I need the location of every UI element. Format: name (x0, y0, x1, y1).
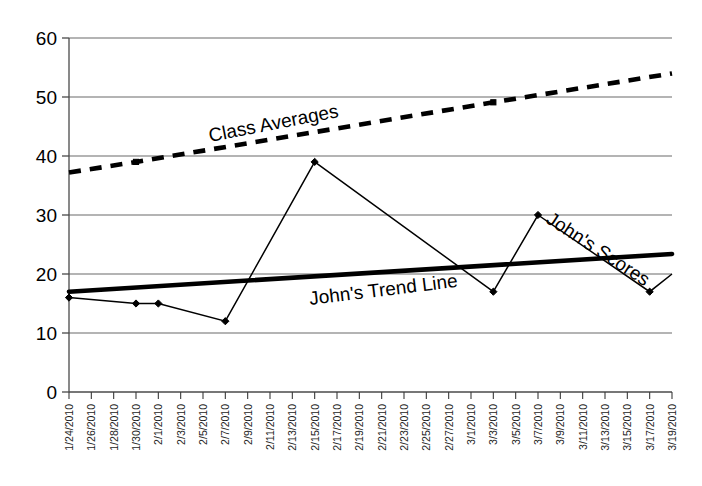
x-tick-label: 2/15/2010 (309, 404, 321, 451)
johns-scores-marker (65, 294, 72, 301)
y-tick-label: 30 (36, 205, 57, 226)
x-tick-label: 2/23/2010 (398, 404, 410, 451)
x-tick-label: 1/30/2010 (130, 404, 142, 451)
y-tick-label: 0 (46, 382, 57, 403)
johns-scores-marker (222, 318, 229, 325)
x-tick-label: 1/24/2010 (63, 404, 75, 451)
y-tick-labels: 0102030405060 (36, 28, 57, 403)
x-tick-label: 3/19/2010 (666, 404, 678, 451)
series-label-class-averages: Class Averages (207, 100, 340, 146)
x-tick-label: 3/15/2010 (621, 404, 633, 451)
chart-canvas: 0102030405060 1/24/20101/26/20101/28/201… (0, 0, 702, 486)
x-tick-label: 2/9/2010 (242, 404, 254, 445)
y-tick-label: 10 (36, 323, 57, 344)
y-tick-label: 60 (36, 28, 57, 49)
x-tick-label: 2/3/2010 (175, 404, 187, 445)
x-tick-label: 1/26/2010 (85, 404, 97, 451)
x-tick-label: 2/5/2010 (197, 404, 209, 445)
x-tick-label: 3/3/2010 (487, 404, 499, 445)
x-tick-label: 2/7/2010 (219, 404, 231, 445)
x-tick-label: 3/9/2010 (554, 404, 566, 445)
class-averages-marker (491, 100, 496, 105)
y-axis (62, 38, 69, 392)
x-tick-label: 2/25/2010 (420, 404, 432, 451)
x-tick-label: 1/28/2010 (108, 404, 120, 451)
x-tick-label: 2/19/2010 (353, 404, 365, 451)
y-tick-label: 20 (36, 264, 57, 285)
series-label-john-s-scores: John's Scores (543, 208, 654, 290)
x-tick-label: 2/21/2010 (376, 404, 388, 451)
series-class-averages (69, 73, 672, 172)
line-chart: 0102030405060 1/24/20101/26/20101/28/201… (0, 0, 702, 486)
x-tick-label: 2/11/2010 (264, 404, 276, 450)
y-tick-label: 40 (36, 146, 57, 167)
x-tick-labels: 1/24/20101/26/20101/28/20101/30/20102/1/… (63, 404, 678, 451)
x-tick-label: 3/7/2010 (532, 404, 544, 445)
x-tick-label: 3/13/2010 (599, 404, 611, 451)
class-averages-line (69, 73, 672, 172)
johns-scores-marker (155, 300, 162, 307)
x-tick-label: 3/17/2010 (644, 404, 656, 451)
x-tick-label: 3/5/2010 (510, 404, 522, 445)
y-tick-label: 50 (36, 87, 57, 108)
x-tick-label: 3/1/2010 (465, 404, 477, 445)
x-axis (69, 392, 672, 399)
johns-scores-marker (132, 300, 139, 307)
x-tick-label: 2/17/2010 (331, 404, 343, 451)
class-averages-marker (133, 159, 138, 164)
x-tick-label: 3/11/2010 (577, 404, 589, 450)
x-tick-label: 2/13/2010 (286, 404, 298, 451)
x-tick-label: 2/27/2010 (443, 404, 455, 451)
x-tick-label: 2/1/2010 (152, 404, 164, 445)
